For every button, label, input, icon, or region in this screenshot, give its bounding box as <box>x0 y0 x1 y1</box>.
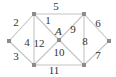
edge-label: 12 <box>34 37 45 49</box>
node-a <box>57 38 61 42</box>
edge-label: 6 <box>95 17 101 29</box>
edge-label: 5 <box>53 0 59 12</box>
edge-label: 9 <box>70 23 76 35</box>
edge-label: 1 <box>45 14 51 26</box>
edge-label: 11 <box>49 64 60 76</box>
node-tl <box>32 12 36 16</box>
node-br <box>82 63 86 67</box>
node-r <box>107 39 111 43</box>
edge-label: 10 <box>54 46 66 58</box>
edge-label: 7 <box>95 49 101 61</box>
edge-label: 2 <box>13 16 19 28</box>
node-label: A <box>54 25 62 37</box>
node-bl <box>32 63 36 67</box>
node-tr <box>82 12 86 16</box>
graph-diagram: 123456789101112A <box>0 0 116 77</box>
edge-label: 4 <box>24 36 30 48</box>
edge-label: 8 <box>82 35 88 47</box>
node-l <box>7 39 11 43</box>
edge-label: 3 <box>13 50 19 62</box>
